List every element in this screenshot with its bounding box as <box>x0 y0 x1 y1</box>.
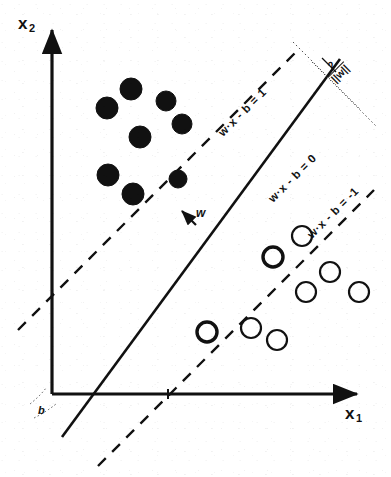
filled-point <box>120 78 142 100</box>
filled-point-group <box>96 78 192 205</box>
margin-line-negative <box>98 190 374 466</box>
filled-point <box>96 97 118 119</box>
open-point <box>320 262 340 282</box>
bias-label: b <box>38 404 45 416</box>
y-axis-label: x2 <box>18 14 36 34</box>
open-point <box>241 318 261 338</box>
filled-point <box>122 183 144 205</box>
normal-vector-label: w <box>196 206 205 220</box>
open-point <box>349 282 369 302</box>
open-point-support-vector <box>263 247 283 267</box>
open-point <box>296 282 316 302</box>
open-point-support-vector <box>197 322 217 342</box>
x-axis-label-text: x <box>345 404 355 423</box>
y-axis-label-text: x <box>18 14 28 33</box>
x-axis-label-sub: 1 <box>355 412 363 424</box>
filled-point <box>172 114 192 134</box>
filled-point <box>129 126 151 148</box>
open-point <box>267 330 287 350</box>
svm-diagram: x2 x1 w·x - b = 1 w·x - b = 0 w·x - b = … <box>0 0 391 477</box>
open-point-group <box>197 226 369 350</box>
filled-point-support-vector <box>169 170 187 188</box>
filled-point <box>97 164 119 186</box>
y-axis-label-sub: 2 <box>28 22 36 34</box>
x-axis-label: x1 <box>345 404 363 424</box>
filled-point <box>156 91 176 111</box>
normal-vector-arrow <box>182 211 196 225</box>
